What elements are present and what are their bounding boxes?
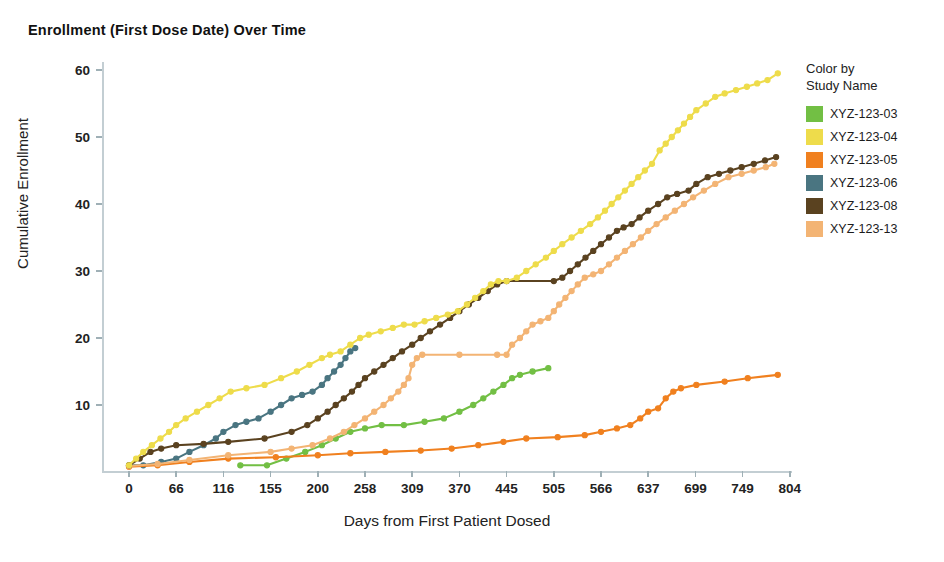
- series-point: [149, 443, 154, 448]
- series-point: [343, 356, 348, 361]
- legend-item-label: XYZ-123-03: [830, 107, 897, 121]
- series-point: [616, 195, 621, 200]
- series-point: [656, 201, 661, 206]
- series-point: [551, 278, 556, 283]
- series-point: [268, 449, 273, 454]
- series-point: [420, 352, 425, 357]
- series-point: [578, 228, 583, 233]
- series-point: [289, 429, 294, 434]
- series-point: [560, 242, 565, 247]
- y-axis-line: [102, 62, 104, 472]
- series-point: [410, 342, 415, 347]
- series-point: [530, 322, 535, 327]
- legend-item-label: XYZ-123-13: [830, 222, 897, 236]
- legend-item-xyz-123-06[interactable]: XYZ-123-06: [806, 172, 938, 193]
- series-point: [642, 168, 647, 173]
- series-point: [739, 165, 744, 170]
- x-tick-mark: [695, 471, 697, 477]
- series-point: [694, 181, 699, 186]
- series-point: [148, 449, 153, 454]
- series-point: [514, 275, 519, 280]
- x-tick-mark: [600, 471, 602, 477]
- series-point: [183, 416, 188, 421]
- series-point: [649, 161, 654, 166]
- series-point: [256, 416, 261, 421]
- series-point: [341, 396, 346, 401]
- series-point: [126, 463, 131, 468]
- series-point: [457, 309, 462, 314]
- series-point: [126, 463, 131, 468]
- x-tick-mark: [317, 471, 319, 477]
- series-point: [563, 295, 568, 300]
- legend-item-xyz-123-08[interactable]: XYZ-123-08: [806, 195, 938, 216]
- series-point: [745, 376, 750, 381]
- series-point: [775, 372, 780, 377]
- series-point: [331, 369, 336, 374]
- series-point: [372, 369, 377, 374]
- series-point: [598, 268, 603, 273]
- series-point: [694, 108, 699, 113]
- x-tick-label: 0: [125, 481, 133, 496]
- series-point: [333, 402, 338, 407]
- legend-item-xyz-123-13[interactable]: XYZ-123-13: [806, 218, 938, 239]
- series-point: [728, 168, 733, 173]
- series-point: [665, 195, 670, 200]
- series-point: [187, 449, 192, 454]
- series-point: [159, 446, 164, 451]
- series-point: [155, 463, 160, 468]
- series-point: [228, 389, 233, 394]
- series-point: [567, 268, 572, 273]
- series-xyz-123-05: [126, 372, 780, 469]
- series-xyz-123-13: [126, 161, 777, 468]
- y-tick-mark: [96, 404, 102, 406]
- x-tick-label: 699: [684, 481, 707, 496]
- x-tick-label: 309: [401, 481, 424, 496]
- series-point: [751, 168, 756, 173]
- series-point: [315, 416, 320, 421]
- series-point: [464, 302, 469, 307]
- series-point: [201, 443, 206, 448]
- legend-item-xyz-123-05[interactable]: XYZ-123-05: [806, 149, 938, 170]
- y-tick-label: 60: [58, 63, 90, 78]
- series-point: [414, 356, 419, 361]
- y-tick-mark: [96, 203, 102, 205]
- series-point: [751, 161, 756, 166]
- series-point: [663, 396, 668, 401]
- series-point: [663, 215, 668, 220]
- series-point: [517, 335, 522, 340]
- series-point: [126, 463, 131, 468]
- x-tick-label: 637: [637, 481, 660, 496]
- series-point: [325, 409, 330, 414]
- series-point: [772, 161, 777, 166]
- series-point: [325, 376, 330, 381]
- series-point: [278, 402, 283, 407]
- series-point: [422, 419, 427, 424]
- series-point: [657, 148, 662, 153]
- series-point: [773, 155, 778, 160]
- legend-item-xyz-123-03[interactable]: XYZ-123-03: [806, 103, 938, 124]
- series-point: [646, 409, 651, 414]
- series-point: [418, 448, 423, 453]
- series-point: [638, 416, 643, 421]
- legend-color-swatch: [806, 152, 823, 168]
- series-point: [226, 439, 231, 444]
- series-point: [381, 362, 386, 367]
- series-point: [362, 376, 367, 381]
- x-tick-label: 258: [354, 481, 377, 496]
- legend-heading-line1: Color by: [806, 60, 938, 77]
- legend-item-xyz-123-04[interactable]: XYZ-123-04: [806, 126, 938, 147]
- series-point: [609, 201, 614, 206]
- series-point: [560, 275, 565, 280]
- x-tick-mark: [553, 471, 555, 477]
- series-point: [383, 449, 388, 454]
- series-point: [305, 423, 310, 428]
- series-point: [491, 389, 496, 394]
- series-point: [158, 436, 163, 441]
- series-point: [174, 456, 179, 461]
- series-line: [129, 157, 776, 465]
- series-point: [551, 248, 556, 253]
- chart-title: Enrollment (First Dose Date) Over Time: [28, 22, 306, 38]
- series-point: [739, 171, 744, 176]
- series-point: [338, 362, 343, 367]
- series-point: [606, 262, 611, 267]
